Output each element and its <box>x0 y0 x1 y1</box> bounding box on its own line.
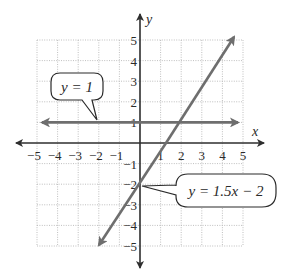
x-tick-label: 5 <box>240 148 247 163</box>
coordinate-plane: −5−4−3−2−112345 −5−4−3−2−112345 x y y = … <box>0 0 284 276</box>
y-tick-label: 4 <box>131 54 138 69</box>
x-tick-label: −1 <box>109 148 123 163</box>
y-tick-label: 2 <box>131 95 138 110</box>
y-axis-label: y <box>144 12 153 27</box>
line-y-equals-1.5x-minus-2 <box>166 37 234 143</box>
x-axis-label: x <box>251 124 259 139</box>
y-tick-label: −5 <box>123 239 137 254</box>
callout-y-equals-1.5x-minus-2-text: y = 1.5x − 2 <box>187 183 264 199</box>
y-tick-label: −1 <box>123 157 137 172</box>
callout-y-equals-1: y = 1 <box>51 73 103 120</box>
x-tick-label: −5 <box>27 148 41 163</box>
x-tick-label: 4 <box>219 148 226 163</box>
x-tick-label: 3 <box>199 148 206 163</box>
x-tick-label: 2 <box>178 148 185 163</box>
callout-y-equals-1-text: y = 1 <box>59 79 93 95</box>
callout-y-equals-1.5x-minus-2: y = 1.5x − 2 <box>142 174 276 207</box>
y-tick-label: 3 <box>131 74 138 89</box>
y-tick-label: 5 <box>131 33 138 48</box>
x-tick-label: −3 <box>68 148 82 163</box>
y-tick-label: −4 <box>123 218 137 233</box>
x-tick-label: −4 <box>48 148 62 163</box>
x-tick-label: −2 <box>89 148 103 163</box>
